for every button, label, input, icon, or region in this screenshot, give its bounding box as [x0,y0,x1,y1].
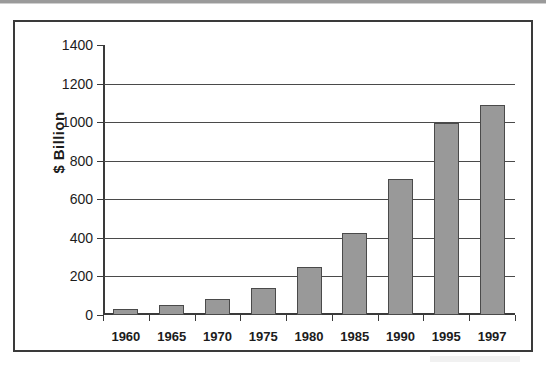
bar [251,288,276,315]
y-axis-tick-label: 1000 [62,114,93,130]
category-axis-tick [195,315,196,321]
y-axis-title: $ Billion [50,88,67,198]
category-axis-tick [240,315,241,321]
bar [342,233,367,315]
y-axis-tick-label: 600 [70,191,93,207]
y-axis-tick-label: 0 [85,307,93,323]
category-axis-tick [286,315,287,321]
y-axis-tick-label: 800 [70,153,93,169]
category-axis-tick [515,315,516,321]
plot-area: 0200400600800100012001400 [103,45,515,315]
bar [297,267,322,315]
category-axis-label: 1965 [157,329,186,344]
category-axis-label: 1985 [340,329,369,344]
category-axis-label: 1980 [295,329,324,344]
category-axis-label: 1970 [203,329,232,344]
category-axis-tick [103,315,104,321]
category-axis-label: 1960 [111,329,140,344]
category-axis-label: 1990 [386,329,415,344]
category-axis-tick [423,315,424,321]
category-axis-label: 1995 [432,329,461,344]
category-axis-tick [469,315,470,321]
page-speckle [430,356,520,362]
y-axis-tick-label: 400 [70,230,93,246]
category-axis-tick [332,315,333,321]
y-axis-tick-label: 200 [70,268,93,284]
y-axis-tick-label: 1200 [62,76,93,92]
y-axis-tick-label: 1400 [62,37,93,53]
chart-frame: $ Billion 0200400600800100012001400 1960… [13,20,533,352]
bar [480,105,505,315]
bar [205,299,230,315]
category-axis-label: 1997 [478,329,507,344]
bar [434,123,459,315]
category-axis-label: 1975 [249,329,278,344]
category-axis-tick [149,315,150,321]
category-axis: 196019651970197519801985199019951997 [103,315,515,355]
bar [159,305,184,315]
bars-layer [103,45,515,315]
page-scan-edge [0,0,546,4]
category-axis-tick [378,315,379,321]
bar [388,179,413,315]
